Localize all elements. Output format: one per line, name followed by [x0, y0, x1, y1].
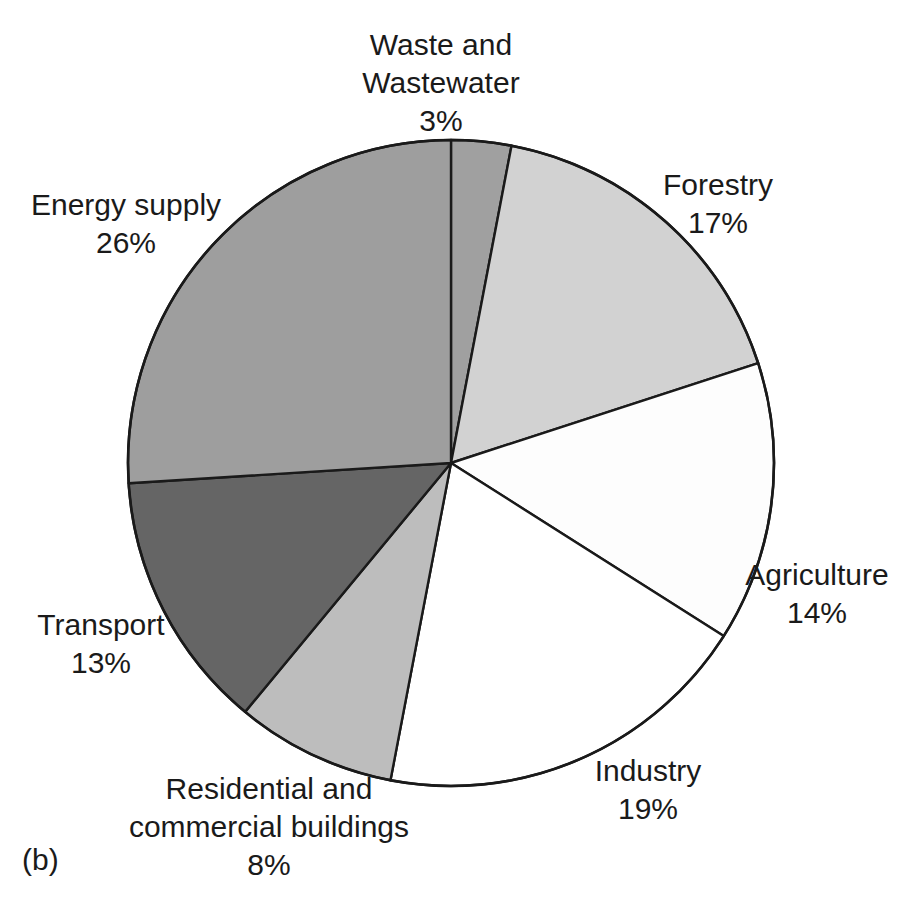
pie-label-residential-line1: Residential and	[74, 770, 464, 808]
pie-label-forestry: Forestry 17%	[600, 166, 836, 242]
pie-label-residential-line2: commercial buildings	[74, 808, 464, 846]
pie-label-residential-value: 8%	[74, 846, 464, 884]
pie-label-transport: Transport 13%	[0, 606, 206, 682]
pie-label-transport-value: 13%	[0, 644, 206, 682]
pie-label-residential-and-commercial-buildings: Residential and commercial buildings 8%	[74, 770, 464, 884]
pie-label-energy-supply: Energy supply 26%	[0, 186, 252, 262]
pie-label-energy-name: Energy supply	[0, 186, 252, 224]
pie-label-transport-name: Transport	[0, 606, 206, 644]
pie-label-agriculture-value: 14%	[722, 594, 911, 632]
pie-label-industry: Industry 19%	[530, 752, 766, 828]
figure-panel: Waste and Wastewater 3% Forestry 17% Agr…	[0, 0, 911, 900]
figure-caption: (b)	[22, 842, 59, 878]
pie-label-waste-and-wastewater: Waste and Wastewater 3%	[296, 26, 586, 140]
pie-label-waste-value: 3%	[296, 102, 586, 140]
pie-label-agriculture-name: Agriculture	[722, 556, 911, 594]
pie-label-industry-value: 19%	[530, 790, 766, 828]
pie-label-energy-value: 26%	[0, 224, 252, 262]
pie-label-forestry-name: Forestry	[600, 166, 836, 204]
pie-label-agriculture: Agriculture 14%	[722, 556, 911, 632]
pie-label-industry-name: Industry	[530, 752, 766, 790]
pie-label-waste-line2: Wastewater	[296, 64, 586, 102]
pie-label-forestry-value: 17%	[600, 204, 836, 242]
pie-label-waste-line1: Waste and	[296, 26, 586, 64]
